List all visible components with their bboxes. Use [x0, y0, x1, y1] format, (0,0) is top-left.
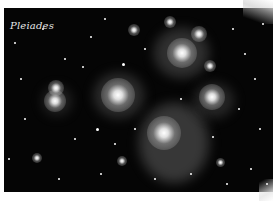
bright-star [167, 38, 197, 68]
bright-star [117, 156, 127, 166]
bright-star [216, 158, 225, 167]
photo-caption: Pleiades [10, 20, 54, 31]
page-curl-bottom [259, 179, 273, 201]
star [20, 78, 22, 80]
bright-star [191, 26, 207, 42]
star [144, 48, 146, 50]
star [114, 143, 116, 145]
star [96, 128, 99, 131]
star [254, 78, 256, 80]
star [8, 158, 10, 160]
star [64, 58, 66, 60]
star [190, 173, 192, 175]
star [82, 66, 84, 68]
pleiades-photo: Pleiades [4, 8, 273, 192]
star [180, 98, 182, 100]
star [226, 183, 228, 185]
bright-star [199, 84, 225, 110]
star [212, 136, 214, 138]
star [154, 178, 156, 180]
star [232, 28, 234, 30]
bright-star [204, 60, 216, 72]
star [14, 42, 16, 44]
star [58, 178, 60, 180]
page-curl-top [243, 0, 273, 24]
star [238, 108, 240, 110]
star [244, 53, 246, 55]
bright-star [164, 16, 176, 28]
bright-star [101, 78, 135, 112]
star [74, 138, 76, 140]
star [24, 118, 26, 120]
star [122, 63, 125, 66]
star [134, 128, 136, 130]
star [250, 168, 252, 170]
star [104, 18, 106, 20]
bright-star [128, 24, 140, 36]
bright-star [32, 153, 42, 163]
star [100, 173, 102, 175]
star [90, 36, 92, 38]
bright-star [48, 80, 64, 96]
star [259, 128, 261, 130]
bright-star [147, 116, 181, 150]
